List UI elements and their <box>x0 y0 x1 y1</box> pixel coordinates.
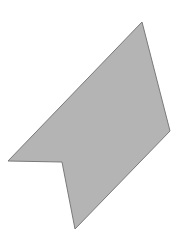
diagram-canvas <box>0 0 182 252</box>
notched-polygon-shape <box>8 22 170 229</box>
